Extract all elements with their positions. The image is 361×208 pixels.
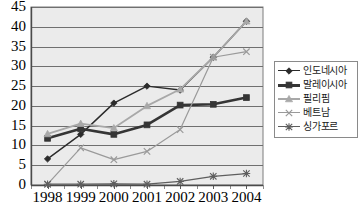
legend-key-star-icon [278,121,300,133]
legend-label: 말레이시아 [300,79,347,91]
y-tick-label: 15 [2,117,26,134]
data-point-diamond [286,68,292,74]
legend-key-diamond-icon [278,65,300,77]
y-tick-label: 35 [2,38,26,55]
legend-item: 베트남 [277,106,355,120]
data-point-star [285,123,293,131]
legend-marker-icon [278,107,300,119]
legend-item: 필리핌 [277,92,355,106]
data-point-star [77,180,85,188]
data-point-star [176,178,184,186]
y-tick-label: 10 [2,136,26,153]
data-point-star [44,180,52,188]
data-point-triangle [285,95,292,101]
chart-legend: 인도네시아말레이시아필리핌베트남싱가포르 [274,61,358,138]
legend-item: 싱가포르 [277,120,355,134]
legend-marker-icon [278,65,300,77]
data-point-square [177,102,183,108]
data-point-square [144,122,150,128]
legend-key-triangle-icon [278,93,300,105]
y-tick-label: 20 [2,97,26,114]
data-point-square [111,131,117,137]
legend-label: 베트남 [300,107,329,119]
y-tick-label: 25 [2,77,26,94]
line-chart: 051015202530354045 199819992000200120022… [0,0,361,208]
data-point-square [244,95,250,101]
legend-marker-icon [278,121,300,133]
y-tick-label: 5 [2,156,26,173]
legend-item: 인도네시아 [277,64,355,78]
x-tick-label: 2004 [224,189,268,206]
data-point-star [209,172,217,180]
data-point-cross [286,110,292,116]
legend-marker-icon [278,93,300,105]
legend-label: 인도네시아 [300,65,347,77]
data-point-star [110,180,118,188]
data-point-square [210,101,216,107]
legend-item: 말레이시아 [277,78,355,92]
data-point-square [286,82,292,88]
legend-label: 필리핌 [300,93,329,105]
data-point-star [243,170,251,178]
plot-background [31,7,263,185]
legend-marker-icon [278,79,300,91]
y-tick-label: 40 [2,18,26,35]
legend-key-cross-icon [278,107,300,119]
data-point-star [143,180,151,188]
y-tick-label: 45 [2,0,26,15]
y-tick-label: 0 [2,176,26,193]
y-tick-label: 30 [2,57,26,74]
legend-key-square-icon [278,79,300,91]
legend-label: 싱가포르 [300,121,338,133]
